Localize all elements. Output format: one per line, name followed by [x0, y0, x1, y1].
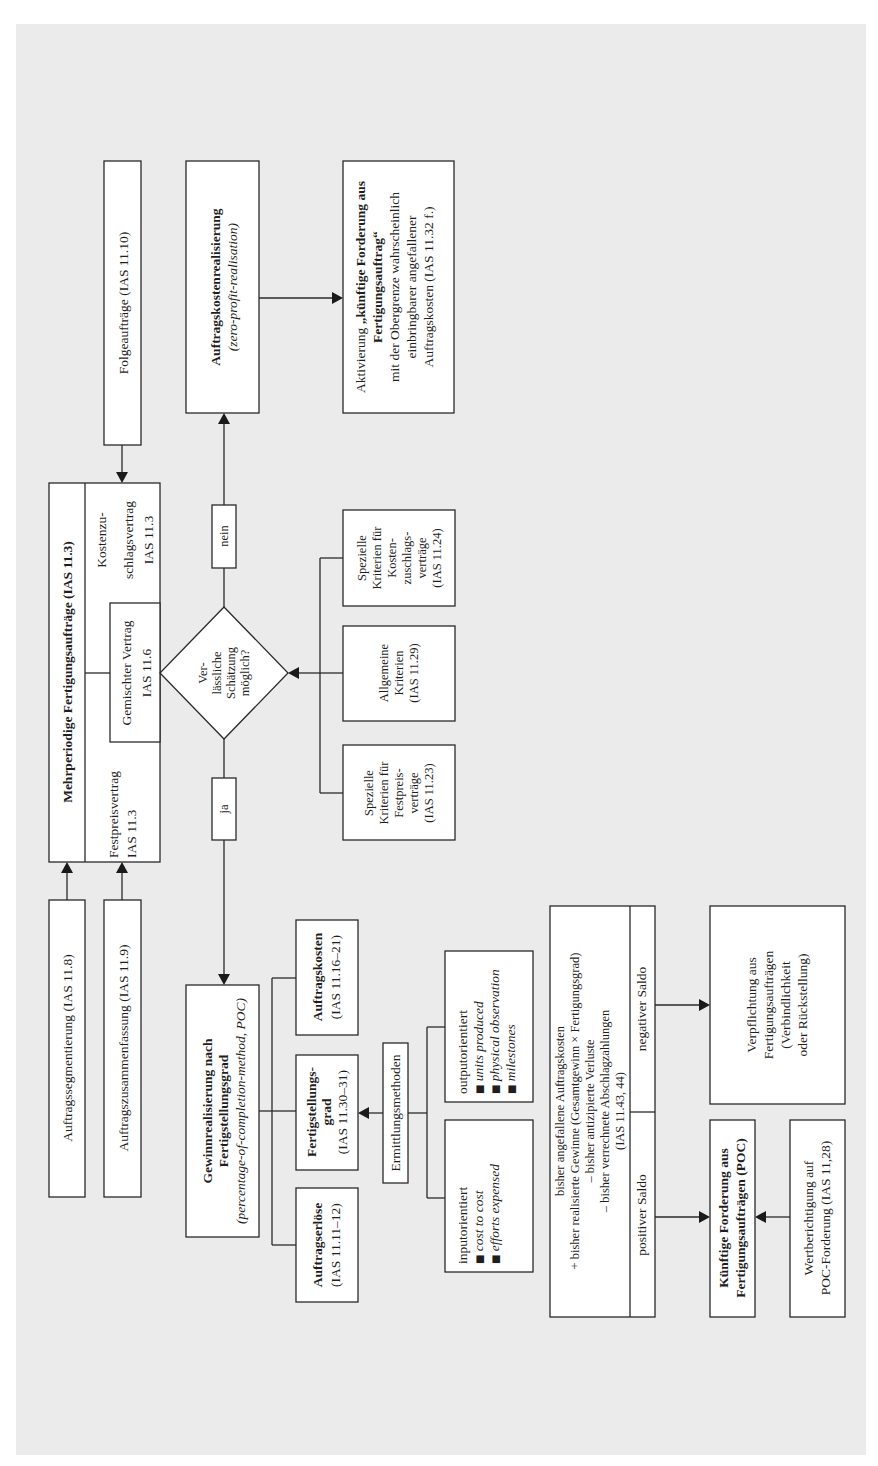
- poc-box: Gewinnrealisierung nach Fertigstellungsg…: [186, 985, 259, 1237]
- bullet-icon: ■: [474, 1081, 485, 1094]
- activation-line-5: Auftragskosten (IAS 11.32 f.): [421, 206, 436, 367]
- criteria-cost-plus-line-5: verträge: [415, 537, 429, 578]
- criteria-cost-plus-line-3: Kosten-: [385, 538, 399, 578]
- yes-label-box: ja: [212, 778, 236, 840]
- decision-line-1: Ver-: [196, 662, 210, 683]
- saldo-line-1: bisher angefallene Auftragskosten: [553, 1025, 567, 1196]
- decision-line-3: Schätzung: [224, 646, 238, 699]
- cost-plus-line-2: schlagsvertrag: [121, 501, 136, 579]
- saldo-line-3: – bisher antizipierte Verluste: [583, 1039, 597, 1184]
- cost-plus-line-1: Kostenzu-: [94, 512, 109, 568]
- bullet-icon: ■: [490, 1081, 501, 1094]
- completion-degree-title-2: grad: [319, 1098, 334, 1125]
- flowchart: Folgeaufträge (IAS 11.10) Auftragskosten…: [0, 0, 878, 1466]
- methods-box: Ermittlungsmethoden: [383, 1043, 408, 1183]
- valuation-line-2: POC-Forderung (IAS 11,28): [818, 1141, 833, 1295]
- criteria-fixed-price-line-5: (IAS 11.23): [422, 763, 436, 822]
- fixed-price-line-1: Festpreisvertrag: [106, 771, 121, 858]
- input-method-item-1: ■ cost to cost: [471, 1189, 486, 1264]
- saldo-line-4: – bisher verrechnete Abschlagzahlungen: [598, 1009, 612, 1213]
- output-method-item-2: ■ physical observation: [487, 969, 502, 1094]
- activation-line-3: mit der Obergrenze wahrscheinlich: [387, 192, 402, 382]
- segmentation-label: Auftragssegmentierung (IAS 11.8): [60, 954, 75, 1141]
- criteria-cost-plus-line-2: Kriterien für: [370, 526, 384, 590]
- poc-subtitle: (percentage-of-completion-method, POC): [233, 998, 248, 1224]
- methods-label: Ermittlungsmethoden: [388, 1054, 403, 1171]
- bullet-icon: ■: [506, 1081, 517, 1094]
- output-title: outputorientiert: [455, 1010, 470, 1094]
- negative-saldo-label: negativer Saldo: [634, 967, 649, 1052]
- output-method-item-1: ■ units produced: [471, 1001, 486, 1094]
- receivable-line-1: Künftige Forderung aus: [716, 1148, 731, 1288]
- completion-degree-title-1: Fertigstellungs-: [304, 1067, 319, 1157]
- mixed-contract-line-2: IAS 11.6: [139, 649, 154, 698]
- completion-degree-box: Fertigstellungs- grad (IAS 11.30–31): [296, 1055, 358, 1170]
- criteria-cost-plus-line-1: Spezielle: [355, 535, 369, 581]
- zero-profit-box: Auftragskostenrealisierung (zero-profit-…: [186, 161, 259, 413]
- main-contract-box: Mehrperiodige Fertigungsaufträge (IAS 11…: [49, 483, 160, 862]
- criteria-fixed-price-line-4: verträge: [407, 772, 421, 813]
- no-label: nein: [217, 524, 231, 546]
- liability-line-4: oder Rückstellung): [795, 953, 810, 1056]
- order-costs-title: Auftragskosten: [310, 932, 325, 1021]
- receivable-line-2: Fertigungsaufträgen (POC): [733, 1138, 748, 1297]
- liability-line-1: Verpflichtung aus: [744, 957, 759, 1053]
- liability-line-3: (Verbindlichkeit: [778, 961, 793, 1049]
- follow-orders-box: Folgeaufträge (IAS 11.10): [104, 161, 141, 445]
- activation-line-4: einbringbarer angefallener: [404, 215, 419, 358]
- follow-orders-label: Folgeaufträge (IAS 11.10): [116, 232, 131, 374]
- order-revenue-box: Auftragserlöse (IAS 11.11–12): [296, 1188, 358, 1302]
- criteria-fixed-price-line-3: Festpreis-: [392, 768, 406, 817]
- criteria-fixed-price-line-1: Spezielle: [362, 770, 376, 816]
- saldo-line-5: (IAS 11.43, 44): [613, 1072, 627, 1150]
- criteria-fixed-price-line-2: Kriterien für: [377, 761, 391, 825]
- criteria-cost-plus-line-4: zuschlags-: [400, 532, 414, 585]
- completion-degree-ref: (IAS 11.30–31): [335, 1070, 350, 1154]
- saldo-line-2: + bisher realisierte Gewinne (Gesamtgewi…: [568, 953, 582, 1270]
- order-costs-ref: (IAS 11.16–21): [328, 935, 343, 1019]
- yes-label: ja: [217, 804, 231, 814]
- input-title: inputorientiert: [455, 1187, 470, 1264]
- main-contract-title: Mehrperiodige Fertigungsaufträge (IAS 11…: [60, 541, 75, 803]
- order-revenue-ref: (IAS 11.11–12): [328, 1203, 343, 1287]
- combination-label: Auftragszusammenfassung (IAS 11.9): [116, 945, 131, 1152]
- activation-prefix: Aktivierung: [353, 324, 368, 393]
- decision-line-4: möglich?: [238, 649, 252, 696]
- zero-profit-title: Auftragskostenrealisierung: [208, 208, 223, 365]
- cost-plus-line-3: IAS 11.3: [141, 516, 156, 565]
- criteria-cost-plus-line-6: (IAS 11.24): [430, 528, 444, 587]
- input-method-item-2: ■ efforts expensed: [487, 1164, 502, 1264]
- activation-line-1: Aktivierung „künftige Forderung aus: [353, 181, 368, 393]
- positive-saldo-label: positiver Saldo: [634, 1174, 649, 1256]
- mixed-contract-line-1: Gemischter Vertrag: [119, 620, 134, 725]
- order-revenue-title: Auftragserlöse: [310, 1203, 325, 1288]
- segmentation-box: Auftragssegmentierung (IAS 11.8): [49, 900, 85, 1197]
- criteria-general-line-3: (IAS 11.29): [407, 643, 421, 702]
- zero-profit-subtitle: (zero-profit-realisation): [225, 222, 240, 351]
- valuation-line-1: Wertberichtigung auf: [801, 1160, 816, 1275]
- activation-bold-1: „künftige Forderung aus: [353, 181, 368, 324]
- fixed-price-line-2: IAS 11.3: [124, 809, 139, 858]
- bullet-icon: ■: [490, 1251, 501, 1264]
- decision-line-2: lässliche: [210, 651, 224, 694]
- order-costs-box: Auftragskosten (IAS 11.16–21): [296, 920, 358, 1035]
- poc-title-2: Fertigstellungsgrad: [216, 1054, 231, 1167]
- criteria-general-line-1: Allgemeine: [377, 643, 391, 702]
- combination-box: Auftragszusammenfassung (IAS 11.9): [104, 900, 141, 1197]
- poc-title-1: Gewinnrealisierung nach: [200, 1038, 215, 1183]
- liability-line-2: Fertigungsaufträgen: [761, 950, 776, 1059]
- activation-box: Aktivierung „künftige Forderung aus Fert…: [343, 161, 454, 413]
- activation-line-2: Fertigungsauftrag“: [370, 231, 385, 343]
- bullet-icon: ■: [474, 1251, 485, 1264]
- no-label-box: nein: [212, 505, 236, 568]
- criteria-general-line-2: Kriterien: [392, 650, 406, 696]
- output-method-item-3: ■ milestones: [503, 1024, 518, 1094]
